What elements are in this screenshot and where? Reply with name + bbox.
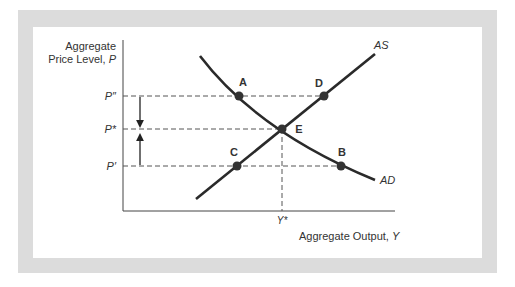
label-c: C bbox=[230, 146, 238, 158]
tick-p-double-prime: P″ bbox=[105, 90, 117, 102]
point-e bbox=[278, 125, 287, 134]
label-e: E bbox=[295, 123, 302, 135]
point-c bbox=[233, 162, 242, 171]
label-b: B bbox=[338, 146, 346, 158]
x-axis-title: Aggregate Output, Y bbox=[299, 230, 400, 242]
point-d bbox=[320, 92, 329, 101]
tick-y-star: Y* bbox=[277, 215, 289, 226]
ad-as-diagram: A D E C B AS AD P″ P* P′ Y* Aggregate Pr… bbox=[0, 0, 515, 287]
point-a bbox=[235, 92, 244, 101]
ad-label: AD bbox=[379, 174, 395, 186]
point-b bbox=[337, 162, 346, 171]
y-axis-title-line1: Aggregate bbox=[65, 40, 116, 52]
tick-p-star: P* bbox=[104, 123, 116, 135]
label-d: D bbox=[315, 77, 323, 89]
label-a: A bbox=[239, 76, 247, 88]
tick-p-prime: P′ bbox=[107, 160, 117, 172]
y-axis-title-line2: Price Level, P bbox=[48, 53, 117, 65]
as-label: AS bbox=[373, 39, 389, 51]
